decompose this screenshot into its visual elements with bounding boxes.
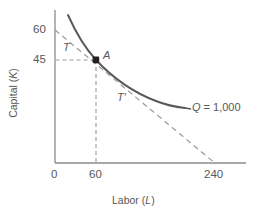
y-axis-title: Capital (K) xyxy=(3,57,21,129)
isoquant-label-value: = 1,000 xyxy=(204,101,241,113)
tangent-line xyxy=(55,30,216,164)
y-tick-label-60: 60 xyxy=(33,24,46,36)
isoquant-label-leader xyxy=(185,108,191,109)
point-a-label: A xyxy=(103,50,110,61)
x-axis-title-tail: ) xyxy=(151,194,155,206)
tangent-label-t-prime: T′ xyxy=(117,92,126,103)
isoquant-label-q: Q xyxy=(192,101,201,113)
isoquant-curve xyxy=(68,15,185,108)
y-axis-title-text: Capital ( xyxy=(7,79,19,118)
x-axis-title: Labor (L) xyxy=(112,191,155,207)
y-tick-label-45: 45 xyxy=(33,54,46,66)
x-tick-label-240: 240 xyxy=(204,169,223,181)
x-axis-title-text: Labor ( xyxy=(112,194,145,206)
x-tick-label-0: 0 xyxy=(51,169,57,181)
y-axis-title-tail: ) xyxy=(7,68,19,72)
figure-isoquant-tangent: 60 45 0 60 240 Capital (K) Labor (L) T T… xyxy=(0,0,259,208)
point-a-marker xyxy=(93,57,100,64)
y-axis-title-symbol: K xyxy=(7,72,19,79)
x-tick-label-60: 60 xyxy=(89,169,102,181)
isoquant-label: Q= 1,000 xyxy=(192,102,241,113)
tangent-label-t: T xyxy=(63,42,70,53)
